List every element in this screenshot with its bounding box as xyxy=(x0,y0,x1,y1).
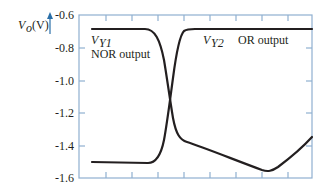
y-ticks xyxy=(79,48,312,146)
chart-figure: V o (V) -0.6 xyxy=(0,0,329,193)
or-output-label: OR output xyxy=(238,33,289,47)
y-tick-label: -1.4 xyxy=(55,139,74,153)
y-tick-label: -0.8 xyxy=(55,41,74,55)
y-tick-labels: -0.6 -0.8 -1.0 -1.2 -1.4 -1.6 xyxy=(55,8,74,185)
nor-output-label: NOR output xyxy=(91,47,151,61)
y-tick-label: -1.2 xyxy=(55,106,74,120)
y-tick-label: -1.0 xyxy=(55,74,74,88)
nor-annotation: V Y1 NOR output xyxy=(91,33,151,61)
y-tick-label: -1.6 xyxy=(55,171,74,185)
y-axis-label: V o (V) xyxy=(18,18,49,35)
y-tick-label: -0.6 xyxy=(55,8,74,22)
vy2-label-sub: Y2 xyxy=(211,36,224,50)
y-axis-label-unit: (V) xyxy=(32,18,49,32)
or-annotation: V Y2 OR output xyxy=(203,33,289,50)
